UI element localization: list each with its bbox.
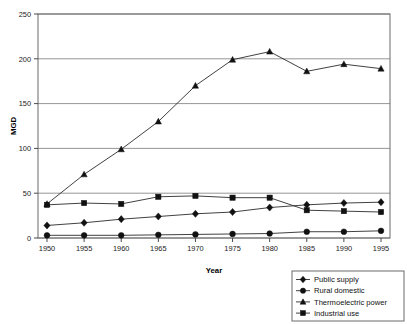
- square-marker: [119, 201, 124, 206]
- y-tick-label: 100: [19, 144, 31, 153]
- triangle-marker: [118, 146, 124, 152]
- line-chart: 050100150200250 195019551960196519701975…: [0, 0, 407, 324]
- square-marker: [81, 200, 86, 205]
- diamond-marker: [192, 210, 198, 217]
- circle-marker: [300, 288, 305, 293]
- series-line: [47, 52, 381, 204]
- circle-marker: [378, 228, 384, 234]
- circle-marker: [304, 229, 310, 235]
- triangle-marker: [81, 171, 87, 177]
- circle-marker: [341, 229, 347, 235]
- grid-lines: [38, 14, 390, 238]
- circle-marker: [230, 231, 236, 237]
- square-marker: [44, 202, 49, 207]
- series-rural-domestic: [44, 228, 384, 238]
- square-marker: [267, 195, 272, 200]
- square-marker: [378, 209, 383, 214]
- circle-marker: [81, 232, 87, 238]
- x-tick-label: 1955: [76, 244, 92, 253]
- y-axis-title: MGD: [9, 117, 18, 136]
- triangle-marker: [267, 48, 273, 54]
- y-tick-label: 150: [19, 99, 31, 108]
- square-marker: [193, 193, 198, 198]
- triangle-marker: [192, 82, 198, 88]
- circle-marker: [44, 232, 50, 238]
- diamond-marker: [44, 222, 50, 229]
- x-axis-ticks: 1950195519601965197019751980198519901995: [39, 238, 389, 253]
- legend-label: Public supply: [314, 275, 359, 284]
- y-tick-label: 50: [23, 189, 31, 198]
- x-tick-label: 1970: [187, 244, 203, 253]
- square-marker: [341, 208, 346, 213]
- x-tick-label: 1995: [373, 244, 389, 253]
- chart-canvas: 050100150200250 195019551960196519701975…: [0, 0, 407, 324]
- x-tick-label: 1980: [261, 244, 277, 253]
- diamond-marker: [341, 199, 347, 206]
- y-tick-label: 250: [19, 10, 31, 19]
- diamond-marker: [155, 213, 161, 220]
- plot-border: [38, 14, 390, 238]
- diamond-marker: [118, 216, 124, 223]
- x-tick-label: 1985: [299, 244, 315, 253]
- x-tick-label: 1960: [113, 244, 129, 253]
- chart-legend: Public supplyRural domesticThermoelectri…: [292, 271, 404, 321]
- legend-label: Thermoelectric power: [314, 298, 387, 307]
- legend-label: Rural domestic: [314, 286, 365, 295]
- x-tick-label: 1965: [150, 244, 166, 253]
- series-thermoelectric-power: [44, 48, 384, 206]
- y-tick-label: 0: [27, 234, 31, 243]
- square-marker: [304, 208, 309, 213]
- circle-marker: [193, 232, 199, 238]
- square-marker: [301, 311, 306, 316]
- data-series-group: [44, 48, 384, 238]
- triangle-marker: [341, 61, 347, 67]
- x-tick-label: 1975: [224, 244, 240, 253]
- square-marker: [156, 194, 161, 199]
- series-line: [47, 231, 381, 235]
- diamond-marker: [267, 204, 273, 211]
- x-tick-label: 1990: [336, 244, 352, 253]
- y-axis-ticks: 050100150200250: [19, 10, 38, 243]
- diamond-marker: [378, 199, 384, 206]
- series-line: [47, 202, 381, 225]
- plot-area-border: [38, 14, 390, 238]
- circle-marker: [118, 232, 124, 238]
- circle-marker: [155, 232, 161, 238]
- x-axis-title: Year: [206, 266, 222, 275]
- y-tick-label: 200: [19, 55, 31, 64]
- diamond-marker: [229, 208, 235, 215]
- circle-marker: [267, 231, 273, 237]
- legend-label: Industrial use: [314, 309, 359, 318]
- square-marker: [230, 195, 235, 200]
- diamond-marker: [81, 219, 87, 226]
- x-tick-label: 1950: [39, 244, 55, 253]
